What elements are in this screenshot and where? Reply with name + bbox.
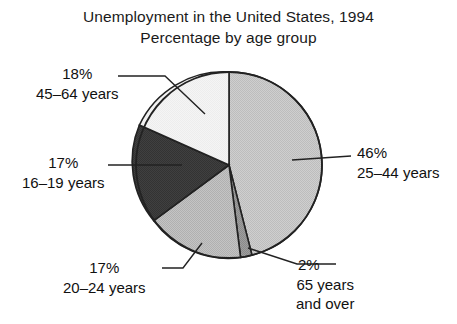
slice-label-65-and-over: 2% 65 years and over <box>296 255 354 314</box>
slice-label-45-64: 18% 45–64 years <box>36 64 119 103</box>
slice-label-20-24: 17% 20–24 years <box>63 258 146 297</box>
slice-percent-16-19: 17% <box>22 153 105 173</box>
slice-label-25-44: 46% 25–44 years <box>357 143 440 182</box>
slice-percent-45-64: 18% <box>36 64 119 84</box>
pie-chart: Unemployment in the United States, 1994 … <box>0 0 457 324</box>
slice-percent-65-and-over: 2% <box>298 255 354 275</box>
slice-group-65-and-over-line2: and over <box>296 294 354 314</box>
slice-group-45-64: 45–64 years <box>36 84 119 104</box>
slice-group-65-and-over-line1: 65 years <box>296 275 354 295</box>
slice-percent-20-24: 17% <box>63 258 146 278</box>
slice-group-20-24: 20–24 years <box>63 278 146 298</box>
slice-group-16-19: 16–19 years <box>22 173 105 193</box>
slice-label-16-19: 17% 16–19 years <box>22 153 105 192</box>
slice-group-25-44: 25–44 years <box>357 163 440 183</box>
slice-percent-25-44: 46% <box>357 143 440 163</box>
